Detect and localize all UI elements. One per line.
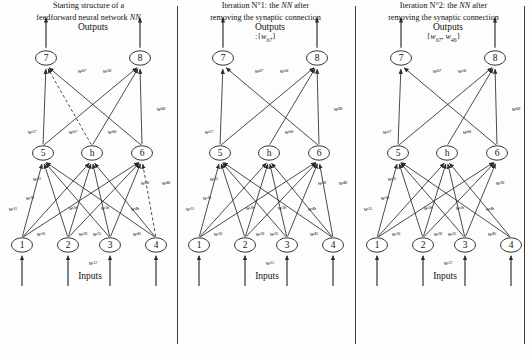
panel-iteration-2: w15w1hw16w25w2hw26w35w3hw36w45w4hw57w58w… [355, 0, 532, 357]
node-hidden-h[interactable]: h [259, 146, 280, 160]
node-input-2[interactable]: 2 [58, 238, 79, 252]
weight-label-w3h: w3h [456, 204, 465, 211]
node-label-5: 5 [396, 148, 401, 158]
weight-label-w12: w12 [444, 259, 453, 266]
node-input-1[interactable]: 1 [12, 238, 33, 252]
edge-1-6 [200, 162, 315, 237]
node-label-3: 3 [108, 240, 113, 250]
node-output-7[interactable]: 7 [391, 51, 412, 65]
node-input-2[interactable]: 2 [413, 238, 434, 252]
node-output-8[interactable]: 8 [130, 51, 151, 65]
weight-label-wh8: wh8 [463, 128, 472, 135]
weight-label-w68: w68 [157, 105, 166, 112]
weight-label-w16: w16 [392, 230, 401, 237]
node-label-2: 2 [421, 240, 426, 250]
weight-label-w3h: w3h [278, 204, 287, 211]
weight-label-w57: w57 [28, 128, 37, 135]
node-output-8[interactable]: 8 [485, 51, 506, 65]
weight-label-wh8: wh8 [108, 128, 117, 135]
panel-iteration-1: w15w1hw16w25w2hw26w35w3hw36w45w4hw46w57w… [177, 0, 354, 357]
weight-label-w57: w57 [205, 128, 214, 135]
node-label-1: 1 [197, 240, 202, 250]
weight-label-w25: w25 [210, 175, 219, 182]
removed-weight-set: {wh7, w46} [355, 31, 532, 46]
edge-5-7 [220, 69, 223, 144]
weight-label-w68: w68 [512, 105, 521, 112]
network-diagram: w15w1hw16w25w2hw26w35w3hw36w45w4hw57w58w… [355, 0, 532, 357]
weight-label-w58: w58 [280, 67, 289, 74]
edge-6-7 [404, 68, 496, 145]
edge-3-5 [401, 163, 464, 236]
node-input-4[interactable]: 4 [323, 238, 344, 252]
node-label-8: 8 [138, 53, 143, 63]
edge-5-8 [44, 68, 137, 145]
edge-4-5 [223, 162, 332, 237]
node-hidden-h[interactable]: h [82, 146, 103, 160]
node-hidden-5[interactable]: 5 [33, 146, 54, 160]
node-label-6: 6 [140, 148, 145, 158]
edge-1-6 [378, 162, 493, 237]
panel-caption: Iteration N°2: the NN afterremoving the … [355, 0, 532, 46]
node-label-3: 3 [285, 240, 290, 250]
edge-6-7 [226, 68, 318, 145]
node-input-2[interactable]: 2 [235, 238, 256, 252]
node-hidden-6[interactable]: 6 [487, 146, 508, 160]
node-hidden-5[interactable]: 5 [388, 146, 409, 160]
weight-label-w1h: w1h [203, 194, 212, 201]
panel-caption: Starting structure of afeedforward neura… [0, 0, 177, 23]
node-input-3[interactable]: 3 [455, 238, 476, 252]
weight-label-w26: w26 [79, 230, 88, 237]
node-label-1: 1 [375, 240, 380, 250]
weight-label-w4h: w4h [308, 205, 317, 212]
inputs-heading: Inputs [78, 271, 102, 281]
node-hidden-6[interactable]: 6 [309, 146, 330, 160]
node-input-1[interactable]: 1 [367, 238, 388, 252]
weight-label-w15: w15 [186, 205, 195, 212]
weight-label-w26: w26 [256, 230, 265, 237]
node-label-7: 7 [221, 53, 226, 63]
node-hidden-5[interactable]: 5 [210, 146, 231, 160]
network-diagram: w15w1hw16w25w2hw26w35w3hw36w45w4hw46w57w… [0, 0, 177, 357]
edge-5-7 [43, 69, 46, 144]
weight-label-w36: w36 [141, 179, 150, 186]
weight-label-w25: w25 [33, 175, 42, 182]
weight-label-wh8: wh8 [285, 128, 294, 135]
edge-4-6 [143, 164, 156, 236]
edge-4-5 [401, 162, 510, 237]
weight-label-w45: w45 [488, 230, 497, 237]
weight-label-w15: w15 [364, 205, 373, 212]
node-label-5: 5 [218, 148, 223, 158]
node-label-5: 5 [41, 148, 46, 158]
inputs-heading: Inputs [255, 271, 279, 281]
panel-starting-structure: w15w1hw16w25w2hw26w35w3hw36w45w4hw46w57w… [0, 0, 177, 357]
weight-label-w2h: w2h [424, 204, 433, 211]
inputs-heading: Inputs [433, 271, 457, 281]
node-hidden-h[interactable]: h [437, 146, 458, 160]
node-label-7: 7 [44, 53, 49, 63]
node-label-2: 2 [243, 240, 248, 250]
node-input-4[interactable]: 4 [146, 238, 167, 252]
node-input-4[interactable]: 4 [501, 238, 522, 252]
figure-root: w15w1hw16w25w2hw26w35w3hw36w45w4hw46w57w… [0, 0, 532, 357]
edge-3-5 [46, 163, 109, 236]
weight-label-w46: w46 [162, 179, 171, 186]
node-input-3[interactable]: 3 [100, 238, 121, 252]
caption-line-2: removing the synaptic connection [355, 12, 532, 24]
edge-5-7 [398, 69, 401, 144]
node-input-1[interactable]: 1 [189, 238, 210, 252]
weight-label-w1h: w1h [381, 194, 390, 201]
panel-caption: Iteration N°1: the NN afterremoving the … [177, 0, 354, 46]
node-label-1: 1 [20, 240, 25, 250]
edge-4-5 [46, 162, 155, 237]
weight-label-w67: w67 [433, 67, 442, 74]
network-diagram: w15w1hw16w25w2hw26w35w3hw36w45w4hw46w57w… [177, 0, 354, 357]
node-hidden-6[interactable]: 6 [132, 146, 153, 160]
node-output-7[interactable]: 7 [213, 51, 234, 65]
node-output-7[interactable]: 7 [36, 51, 57, 65]
node-output-8[interactable]: 8 [307, 51, 328, 65]
node-input-3[interactable]: 3 [277, 238, 298, 252]
weight-label-w4h: w4h [486, 205, 495, 212]
node-label-h: h [445, 148, 450, 158]
edge-6-8 [317, 69, 319, 144]
node-label-4: 4 [509, 240, 514, 250]
